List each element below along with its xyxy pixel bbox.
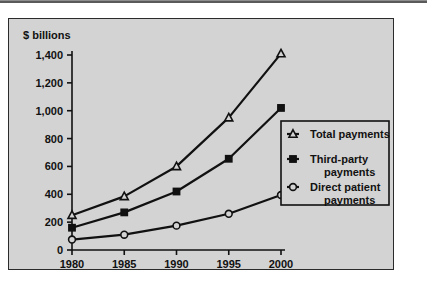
x-tick-label: 1990 — [164, 258, 188, 269]
y-tick-label: 600 — [45, 160, 63, 172]
chart-figure-panel: $ billions 02004006008001,0001,2001,400 … — [8, 18, 394, 270]
legend-swatch-marker — [290, 156, 296, 162]
y-axis-label: $ billions — [23, 29, 71, 41]
y-tick-label: 200 — [45, 216, 63, 228]
x-axis-ticks: 19801985199019952000 — [60, 250, 293, 269]
x-tick-label: 1985 — [112, 258, 136, 269]
y-axis-ticks: 02004006008001,0001,2001,400 — [35, 49, 72, 256]
top-edge-bar — [0, 0, 427, 3]
y-tick-label: 1,400 — [35, 49, 63, 61]
data-point-marker — [69, 225, 75, 231]
legend-label-line1: Third-party — [310, 153, 369, 165]
data-point-marker — [121, 231, 128, 238]
legend-label-line2: payments — [324, 166, 375, 178]
series-line-3 — [72, 195, 281, 240]
y-tick-label: 1,000 — [35, 105, 63, 117]
data-point-marker — [278, 105, 284, 111]
y-tick-label: 0 — [57, 244, 63, 256]
legend-label-line1: Direct patient — [310, 181, 381, 193]
y-tick-label: 800 — [45, 133, 63, 145]
data-point-marker — [277, 49, 285, 56]
data-point-marker — [120, 192, 128, 199]
y-tick-label: 400 — [45, 188, 63, 200]
x-tick-label: 1995 — [217, 258, 241, 269]
data-point-marker — [173, 188, 179, 194]
line-chart-svg: $ billions 02004006008001,0001,2001,400 … — [9, 19, 393, 269]
data-point-marker — [173, 222, 180, 229]
series-layer — [68, 49, 285, 243]
x-tick-label: 1980 — [60, 258, 84, 269]
legend-label-line1: Total payments — [310, 128, 390, 140]
series-3 — [69, 192, 285, 243]
top-edge-highlight — [0, 0, 427, 1]
data-point-marker — [69, 236, 76, 243]
data-point-marker — [121, 209, 127, 215]
x-tick-label: 2000 — [269, 258, 293, 269]
data-point-marker — [226, 156, 232, 162]
y-tick-label: 1,200 — [35, 77, 63, 89]
data-point-marker — [68, 211, 76, 218]
data-point-marker — [225, 210, 232, 217]
chart-legend[interactable]: Total paymentsThird-partypaymentsDirect … — [281, 121, 390, 206]
legend-swatch-marker — [290, 184, 297, 191]
legend-label-line2: payments — [324, 194, 375, 206]
